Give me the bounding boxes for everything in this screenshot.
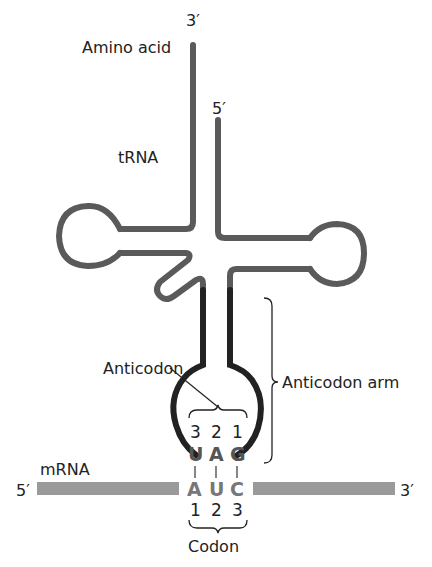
codon-base-u: U	[209, 478, 224, 500]
base-pair-bonds	[195, 466, 237, 478]
codon-position-1: 1	[190, 500, 201, 520]
trna-backbone	[59, 45, 364, 299]
anticodon-arm-label: Anticodon arm	[282, 373, 399, 392]
codon-label: Codon	[188, 537, 239, 556]
mrna-label: mRNA	[40, 460, 90, 479]
five-prime-top-label: 5′	[212, 99, 226, 118]
t-stem-lower	[230, 269, 310, 290]
anticodon-base-u: U	[188, 443, 203, 465]
codon-brace	[189, 520, 247, 533]
codon-base-a: A	[187, 478, 202, 500]
mrna-bar-right	[253, 482, 395, 495]
acceptor-3prime-strand	[120, 45, 193, 229]
codon-base-c: C	[230, 478, 244, 500]
trna-diagram: 3′ Amino acid 5′ tRNA Anticodon Anticodo…	[0, 0, 432, 567]
anticodon-arm-brace	[264, 298, 278, 463]
trna-label: tRNA	[118, 148, 158, 167]
mrna-bar-left	[37, 482, 179, 495]
acceptor-5prime-strand	[218, 120, 310, 238]
variable-loop-kink	[120, 253, 203, 299]
anticodon-base-g: G	[230, 443, 246, 465]
codon-position-3: 3	[232, 500, 243, 520]
codon-position-2: 2	[211, 500, 222, 520]
d-loop	[59, 206, 120, 266]
mrna-five-prime-label: 5′	[16, 481, 30, 500]
anticodon-position-2: 2	[211, 422, 222, 442]
mrna-three-prime-label: 3′	[400, 481, 414, 500]
anticodon-position-3: 3	[190, 422, 201, 442]
amino-acid-label: Amino acid	[82, 38, 171, 57]
anticodon-base-a: A	[209, 443, 224, 465]
t-loop	[310, 224, 364, 284]
anticodon-brace	[189, 405, 247, 418]
three-prime-top-label: 3′	[186, 11, 200, 30]
anticodon-position-1: 1	[232, 422, 243, 442]
